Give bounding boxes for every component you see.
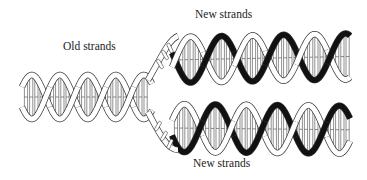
old-strands-label: Old strands xyxy=(63,41,116,53)
daughter-helix-top xyxy=(172,34,350,83)
daughter-helix-bottom xyxy=(172,104,350,154)
parental-helix xyxy=(22,75,152,119)
new-strands-label-bottom: New strands xyxy=(193,158,250,170)
dna-diagram-canvas xyxy=(0,0,367,180)
new-strands-label-top: New strands xyxy=(195,9,252,21)
dna-replication-diagram: Old strands New strands New strands xyxy=(0,0,367,180)
